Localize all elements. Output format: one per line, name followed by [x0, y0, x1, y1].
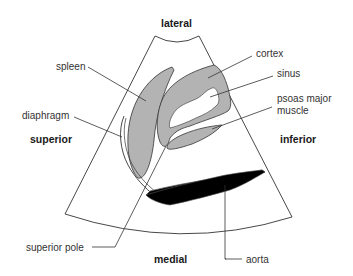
label-psoas-line1: psoas major	[277, 93, 331, 104]
label-diaphragm: diaphragm	[22, 110, 69, 121]
orientation-label-inferior: inferior	[280, 133, 316, 145]
ultrasound-sector-outline	[65, 36, 292, 234]
label-aorta: aorta	[246, 254, 269, 265]
label-cortex: cortex	[256, 48, 283, 59]
label-superior-pole: superior pole	[26, 242, 84, 253]
label-spleen: spleen	[56, 61, 85, 72]
label-sinus: sinus	[277, 68, 300, 79]
orientation-label-superior: superior	[30, 133, 72, 145]
orientation-label-medial: medial	[154, 253, 187, 265]
orientation-label-lateral: lateral	[161, 17, 192, 29]
label-psoas-line2: muscle	[277, 105, 309, 116]
